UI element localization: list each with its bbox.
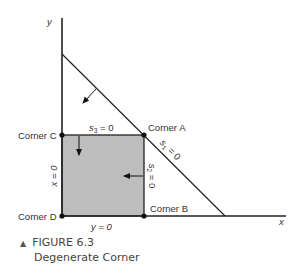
- x0-constraint-label: x = 0: [48, 165, 59, 188]
- y0-constraint-label: y = 0: [90, 221, 113, 232]
- degenerate-corner-diagram: y x Corner C Corner A Corner B Corner D …: [0, 0, 307, 274]
- figure-number: FIGURE 6.3: [32, 236, 94, 249]
- arrow-s1-direction: [83, 89, 96, 103]
- s3-constraint-label: s3 = 0: [89, 122, 114, 134]
- corner-c-label: Corner C: [18, 130, 57, 141]
- s1-constraint-label: s1 = 0: [157, 137, 183, 163]
- corner-d-dot: [59, 213, 64, 218]
- y-axis-label: y: [46, 16, 53, 27]
- corner-d-label: Corner D: [18, 211, 57, 222]
- corner-b-dot: [141, 213, 146, 218]
- figure-title: Degenerate Corner: [20, 251, 140, 265]
- corner-c-dot: [59, 132, 64, 137]
- triangle-marker-icon: ▲: [20, 239, 26, 248]
- corner-b-label: Corner B: [150, 203, 188, 214]
- corner-a-label: Corner A: [148, 122, 186, 133]
- s2-constraint-label: s2 = 0: [146, 164, 158, 189]
- figure-caption: ▲FIGURE 6.3 Degenerate Corner: [20, 236, 140, 265]
- corner-a-dot: [141, 132, 146, 137]
- x-axis-label: x: [278, 216, 285, 227]
